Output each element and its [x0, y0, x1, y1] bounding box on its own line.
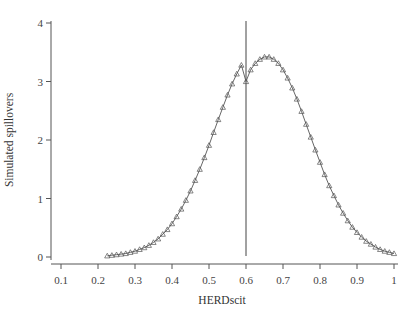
x-tick-label: 0.9 — [350, 274, 364, 286]
x-tick-label: 0.5 — [202, 274, 216, 286]
x-tick-label: 0.8 — [313, 274, 327, 286]
x-axis-title: HERDscit — [198, 294, 246, 306]
series-layer — [105, 54, 397, 258]
x-tick-label: 0.3 — [128, 274, 142, 286]
series-line — [107, 57, 394, 256]
y-axis-title: Simulated spillovers — [3, 92, 16, 187]
x-axis: 0.10.20.30.40.50.60.70.80.91 — [51, 264, 398, 286]
y-tick-label: 2 — [38, 134, 44, 146]
y-axis: 01234 — [38, 17, 52, 263]
x-tick-label: 0.2 — [91, 274, 105, 286]
x-tick-label: 0.6 — [239, 274, 253, 286]
chart: 01234 0.10.20.30.40.50.60.70.80.91 HERDs… — [0, 0, 415, 320]
x-tick-label: 1 — [391, 274, 397, 286]
y-tick-label: 4 — [38, 17, 44, 29]
x-tick-label: 0.7 — [276, 274, 290, 286]
y-tick-label: 1 — [38, 193, 44, 205]
x-tick-label: 0.4 — [165, 274, 179, 286]
y-tick-label: 3 — [38, 76, 44, 88]
y-tick-label: 0 — [38, 251, 44, 263]
x-tick-label: 0.1 — [54, 274, 68, 286]
